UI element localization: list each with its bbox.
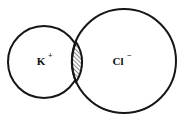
chloride-ion-circle <box>72 9 176 113</box>
diagram-canvas: K + Cl − <box>0 0 191 123</box>
chloride-ion-charge: − <box>127 51 132 60</box>
potassium-ion-label: K <box>37 55 46 67</box>
ion-overlap-diagram: K + Cl − <box>0 0 191 123</box>
potassium-ion-charge: + <box>48 51 53 60</box>
chloride-ion-label: Cl <box>113 55 124 67</box>
